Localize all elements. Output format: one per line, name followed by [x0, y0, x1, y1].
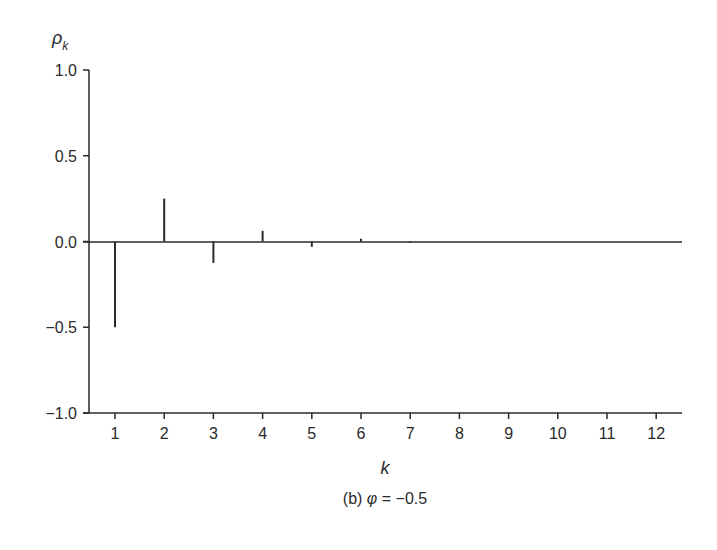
x-tick-label: 12: [647, 425, 665, 442]
acf-chart: ρk 1.00.50.0−0.5−1.0 123456789101112 k (…: [0, 0, 717, 550]
x-tick-label: 8: [455, 425, 464, 442]
y-tick-label: 1.0: [55, 62, 77, 79]
x-tick-label: 2: [160, 425, 169, 442]
x-tick-label: 7: [406, 425, 415, 442]
x-tick-label: 3: [209, 425, 218, 442]
y-tick-label: 0.5: [55, 148, 77, 165]
y-tick-label: 0.0: [55, 234, 77, 251]
x-axis-label: k: [381, 458, 391, 478]
x-tick-label: 5: [307, 425, 316, 442]
stem-bars: [115, 199, 410, 328]
x-ticks: 123456789101112: [111, 413, 666, 442]
x-tick-label: 11: [599, 425, 616, 442]
y-tick-label: −1.0: [45, 405, 77, 422]
x-tick-label: 9: [504, 425, 513, 442]
x-tick-label: 1: [111, 425, 120, 442]
x-tick-label: 4: [258, 425, 267, 442]
y-ticks: 1.00.50.0−0.5−1.0: [45, 62, 89, 422]
chart-caption: (b) φ = −0.5: [343, 490, 427, 507]
y-tick-label: −0.5: [45, 319, 77, 336]
x-tick-label: 6: [357, 425, 366, 442]
x-tick-label: 10: [549, 425, 567, 442]
y-axis-label: ρk: [51, 28, 69, 53]
